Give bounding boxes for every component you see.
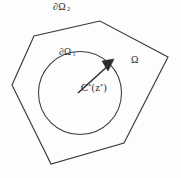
outer-boundary-label: ∂Ω2 [53,2,70,13]
radius-label-close-paren: ) [103,82,107,93]
inner-boundary-label: ∂Ω1 [59,48,75,58]
figure-canvas: ∂Ω2 ∂Ω1 Ω C*(z*) [0,0,181,178]
outer-boundary-subscript: 2 [67,5,70,12]
outer-boundary-omega: Ω [58,1,67,12]
domain-label: Ω [131,55,139,65]
inner-boundary-subscript: 1 [72,51,75,57]
domain-omega: Ω [131,54,139,65]
radius-label: C*(z*) [81,83,107,94]
